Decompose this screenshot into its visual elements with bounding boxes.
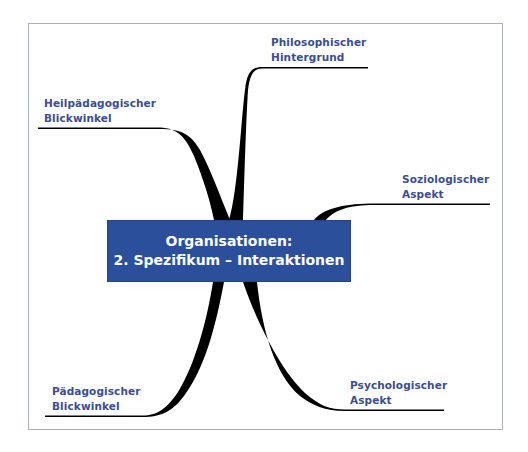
central-topic-line1: Organisationen:	[166, 232, 293, 251]
branch-soziologisch	[314, 204, 490, 221]
branch-label-line1: Psychologischer	[350, 378, 447, 393]
central-topic-box: Organisationen: 2. Spezifikum – Interakt…	[107, 220, 351, 282]
branch-label-line1: Heilpädagogischer	[44, 96, 156, 111]
branch-label-line1: Philosophischer	[271, 35, 366, 50]
branch-label-line2: Hintergrund	[271, 50, 366, 65]
branch-label-line2: Aspekt	[402, 187, 489, 202]
branch-label-philosophisch: Philosophischer Hintergrund	[271, 35, 366, 65]
branch-label-soziologisch: Soziologischer Aspekt	[402, 172, 489, 202]
central-topic-line2: 2. Spezifikum – Interaktionen	[113, 251, 344, 270]
branch-label-psychologisch: Psychologischer Aspekt	[350, 378, 447, 408]
branch-label-line1: Pädagogischer	[52, 384, 141, 399]
branch-heilpaedagogisch	[38, 128, 230, 221]
branch-philosophisch	[229, 67, 368, 220]
branch-label-line2: Blickwinkel	[44, 111, 156, 126]
branch-label-line2: Aspekt	[350, 393, 447, 408]
branch-label-line2: Blickwinkel	[52, 399, 141, 414]
branch-label-paedagogisch: Pädagogischer Blickwinkel	[52, 384, 141, 414]
branch-label-heilpaedagogisch: Heilpädagogischer Blickwinkel	[44, 96, 156, 126]
branch-label-line1: Soziologischer	[402, 172, 489, 187]
